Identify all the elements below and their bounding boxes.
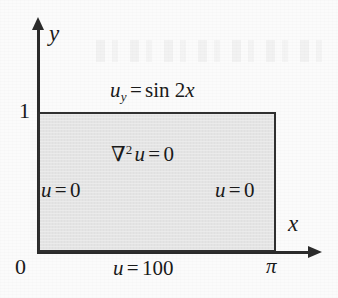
bc-top-coefficient: 2 xyxy=(175,78,186,102)
bc-left-value: 0 xyxy=(70,178,81,202)
x-axis-label: x xyxy=(288,212,298,235)
boundary-condition-bottom: u=100 xyxy=(113,258,174,279)
boundary-condition-left: u=0 xyxy=(41,180,81,201)
x-axis-tick-label-pi: π xyxy=(266,256,277,277)
bc-bottom-equals: = xyxy=(127,256,139,280)
bc-bottom-value: 100 xyxy=(142,256,174,280)
pde-equals: = xyxy=(148,142,160,166)
pde-value: 0 xyxy=(163,142,174,166)
bc-bottom-variable: u xyxy=(113,256,124,280)
bc-top-argument-variable: x xyxy=(185,78,194,102)
bc-top-variable: u xyxy=(110,78,121,102)
bc-left-variable: u xyxy=(41,178,52,202)
origin-label-0: 0 xyxy=(15,256,26,278)
pde-variable: u xyxy=(134,142,145,166)
y-axis-tick-label-1: 1 xyxy=(19,100,30,122)
bc-right-equals: = xyxy=(229,178,241,202)
pde-exponent: 2 xyxy=(126,142,133,157)
y-axis-label: y xyxy=(49,22,59,45)
bc-top-function: sin xyxy=(145,78,170,102)
boundary-condition-top: uy=sin 2x xyxy=(110,80,195,103)
laplace-bvp-figure: y x 1 0 π uy=sin 2x ∇2u=0 u=0 u=0 u=100 xyxy=(0,0,338,298)
bc-top-subscript: y xyxy=(121,89,127,104)
bc-right-value: 0 xyxy=(244,178,255,202)
y-axis-arrowhead-icon xyxy=(32,17,44,30)
bc-left-equals: = xyxy=(55,178,67,202)
nabla-icon: ∇ xyxy=(111,142,126,166)
bc-right-variable: u xyxy=(215,178,226,202)
bc-top-equals: = xyxy=(130,78,142,102)
scan-bleedthrough-artifact xyxy=(96,40,326,62)
x-axis-arrowhead-icon xyxy=(308,246,322,258)
boundary-condition-right: u=0 xyxy=(215,180,255,201)
pde-label-laplace: ∇2u=0 xyxy=(111,143,174,165)
